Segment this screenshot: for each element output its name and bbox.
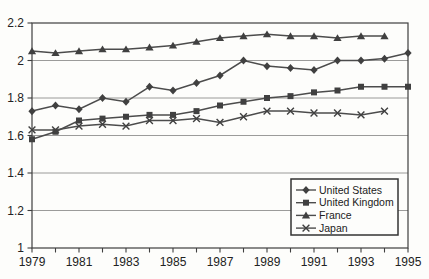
marker-diamond-united-states (357, 57, 364, 65)
x-tick-label-1985: 1985 (160, 255, 187, 269)
x-tick-label-1979: 1979 (19, 255, 46, 269)
x-tick-label-1989: 1989 (254, 255, 281, 269)
marker-diamond-united-states (334, 57, 341, 65)
x-tick-label-1995: 1995 (395, 255, 422, 269)
marker-diamond-united-states (310, 66, 317, 74)
legend-label-japan: Japan (319, 222, 348, 234)
marker-square-united-kingdom (170, 112, 176, 118)
marker-square-united-kingdom (382, 84, 388, 90)
marker-diamond-united-states (216, 72, 223, 80)
marker-diamond-united-states (169, 87, 176, 95)
series-line-united-states (32, 53, 408, 111)
y-tick-label-1.6: 1.6 (7, 129, 24, 143)
series-united-kingdom (29, 84, 411, 143)
marker-square-united-kingdom (217, 103, 223, 109)
line-chart-figure: 11.21.41.61.822.219791981198319851987198… (0, 0, 429, 279)
legend-label-united-kingdom: United Kingdom (319, 196, 394, 208)
marker-square-united-kingdom (76, 118, 82, 124)
marker-diamond-united-states (122, 98, 129, 106)
marker-square-united-kingdom (311, 89, 317, 95)
line-chart-svg: 11.21.41.61.822.219791981198319851987198… (0, 0, 429, 279)
y-tick-label-1.4: 1.4 (7, 166, 24, 180)
marker-diamond-united-states (146, 83, 153, 91)
marker-diamond-united-states (240, 57, 247, 65)
marker-square-united-kingdom (288, 93, 294, 99)
marker-square-united-kingdom (405, 84, 411, 90)
x-tick-label-1993: 1993 (348, 255, 375, 269)
y-tick-label-1.2: 1.2 (7, 204, 24, 218)
marker-square-united-kingdom (335, 88, 341, 94)
marker-square-united-kingdom (29, 136, 35, 142)
marker-diamond-united-states (193, 79, 200, 87)
marker-square-united-kingdom (147, 112, 153, 118)
x-tick-label-1983: 1983 (113, 255, 140, 269)
x-tick-label-1991: 1991 (301, 255, 328, 269)
marker-diamond-united-states (404, 49, 411, 57)
marker-square-united-kingdom (194, 108, 200, 114)
y-tick-label-2: 2 (17, 54, 24, 68)
x-tick-label-1987: 1987 (207, 255, 234, 269)
y-tick-label-2.2: 2.2 (7, 16, 24, 30)
marker-square-united-kingdom (358, 84, 364, 90)
marker-diamond-united-states (28, 107, 35, 115)
marker-diamond-united-states (52, 102, 59, 110)
marker-diamond-united-states (75, 105, 82, 113)
series-line-united-kingdom (32, 87, 408, 140)
legend-label-united-states: United States (319, 184, 382, 196)
x-axis: 197919811983198519871989199119931995 (19, 248, 422, 269)
marker-square-united-kingdom (241, 99, 247, 105)
marker-diamond-united-states (381, 55, 388, 63)
marker-diamond-united-states (99, 94, 106, 102)
marker-square-united-kingdom (123, 114, 129, 120)
marker-square-united-kingdom (100, 116, 106, 122)
x-tick-label-1981: 1981 (66, 255, 93, 269)
y-tick-label-1: 1 (17, 241, 24, 255)
series-france (28, 30, 389, 56)
marker-diamond-united-states (263, 62, 270, 70)
series-line-france (32, 34, 385, 53)
legend-label-france: France (319, 209, 352, 221)
y-axis: 11.21.41.61.822.2 (7, 16, 32, 255)
legend: United StatesUnited KingdomFranceJapan (291, 179, 398, 235)
marker-square-united-kingdom (264, 95, 270, 101)
marker-diamond-united-states (287, 64, 294, 72)
legend-marker-square-united-kingdom (303, 200, 309, 206)
y-tick-label-1.8: 1.8 (7, 91, 24, 105)
